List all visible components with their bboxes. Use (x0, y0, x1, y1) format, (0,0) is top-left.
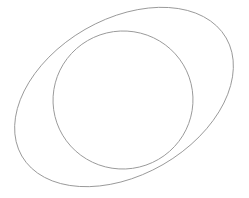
figure-background (0, 0, 249, 198)
two-ellipses-figure (0, 0, 249, 198)
figure-canvas (0, 0, 249, 198)
